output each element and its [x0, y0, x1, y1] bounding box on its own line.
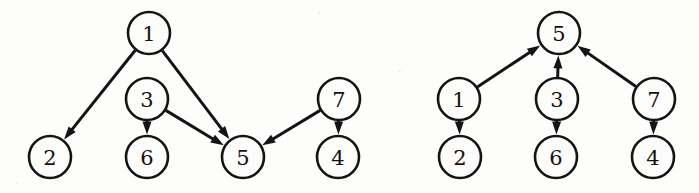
node-label-5: 5: [552, 22, 565, 46]
node-6-right-graph[interactable]: 6: [535, 136, 577, 178]
node-layer: 13726545137264: [29, 12, 675, 178]
node-label-1: 1: [452, 88, 465, 112]
edge-3-to-6: [143, 121, 152, 135]
arrowhead-1-2: [455, 121, 464, 134]
node-7-right-graph[interactable]: 7: [633, 78, 675, 120]
edge-7-to-5: [262, 110, 320, 145]
node-1-left-graph[interactable]: 1: [128, 12, 170, 54]
edge-1-to-5: [477, 45, 540, 86]
graph-figure: 13726545137264: [0, 0, 699, 193]
node-1-right-graph[interactable]: 1: [438, 78, 480, 120]
node-3-left-graph[interactable]: 3: [126, 78, 168, 120]
node-label-3: 3: [140, 88, 153, 112]
edge-7-to-4: [649, 121, 658, 135]
arrowhead-1-5: [527, 45, 540, 56]
arrowhead-7-4: [334, 121, 343, 134]
node-label-2: 2: [453, 146, 466, 170]
node-4-left-graph[interactable]: 4: [317, 136, 359, 178]
arrowhead-7-5: [262, 135, 275, 146]
graph-canvas: 13726545137264: [0, 0, 699, 193]
edge-3-to-6: [552, 121, 561, 135]
node-2-left-graph[interactable]: 2: [29, 136, 71, 178]
node-7-left-graph[interactable]: 7: [318, 78, 360, 120]
node-6-left-graph[interactable]: 6: [126, 136, 168, 178]
arrowhead-7-4: [649, 121, 658, 134]
node-label-7: 7: [332, 88, 345, 112]
node-label-4: 4: [646, 146, 659, 170]
node-2-right-graph[interactable]: 2: [439, 136, 481, 178]
node-label-7: 7: [647, 88, 660, 112]
node-label-6: 6: [549, 146, 562, 170]
edge-line-1-5: [477, 51, 531, 86]
edge-line-1-5: [162, 51, 222, 131]
edge-group-left-graph: [64, 50, 343, 145]
arrowhead-3-6: [143, 122, 152, 135]
edge-7-to-5: [577, 46, 635, 87]
edge-3-to-5: [553, 55, 562, 77]
node-label-6: 6: [140, 146, 153, 170]
node-5-right-graph[interactable]: 5: [538, 12, 580, 54]
arrowhead-3-5: [210, 135, 223, 146]
edge-line-1-2: [71, 50, 135, 131]
edge-line-3-5: [166, 110, 214, 139]
node-4-right-graph[interactable]: 4: [632, 136, 674, 178]
edge-1-to-5: [162, 51, 229, 140]
node-label-3: 3: [550, 88, 563, 112]
node-label-2: 2: [43, 146, 56, 170]
arrowhead-3-5: [553, 55, 562, 68]
edge-1-to-2: [64, 50, 135, 139]
node-5-left-graph[interactable]: 5: [222, 136, 264, 178]
arrowhead-3-6: [552, 121, 561, 134]
node-group-right-graph: 5137264: [438, 12, 675, 178]
node-label-4: 4: [331, 146, 344, 170]
node-3-right-graph[interactable]: 3: [536, 78, 578, 120]
edge-3-to-5: [166, 110, 224, 145]
edge-line-7-5: [587, 52, 636, 86]
node-label-5: 5: [236, 146, 249, 170]
edge-1-to-2: [455, 121, 464, 135]
edge-line-7-5: [272, 110, 320, 139]
node-label-1: 1: [142, 22, 155, 46]
edge-7-to-4: [334, 121, 343, 135]
